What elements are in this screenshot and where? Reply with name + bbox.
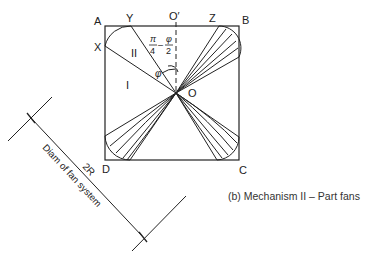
angle-arc-phi [162,69,176,73]
extension-line-upper [8,97,52,141]
mechanism-diagram: A Y O′ Z B X O D C II I φ π 4 – φ 2 2R D… [0,0,370,260]
extension-line-lower [132,196,186,251]
label-pi-den: 4 [150,46,155,56]
label-y: Y [126,12,134,24]
arc-xy [105,26,131,46]
label-o: O [188,87,197,99]
label-region-i: I [126,79,129,91]
label-phi-half: φ [166,34,172,44]
label-a: A [94,15,102,27]
label-c: C [239,164,247,176]
label-minus: – [158,40,163,50]
label-pi: π [150,34,157,44]
square-abcd [105,26,239,160]
label-phi-half-den: 2 [166,46,171,56]
label-b: B [242,14,249,26]
figure-caption: (b) Mechanism II – Part fans [228,190,360,202]
dimension-line [31,118,143,237]
label-d: D [102,163,110,175]
label-phi: φ [155,68,162,79]
label-region-ii: II [131,47,137,59]
label-x: X [94,41,102,53]
label-z: Z [209,12,216,24]
dimension-value: 2R [81,161,98,178]
dimension-label: Diam of fan system [41,142,105,209]
label-o-prime: O′ [169,10,180,22]
